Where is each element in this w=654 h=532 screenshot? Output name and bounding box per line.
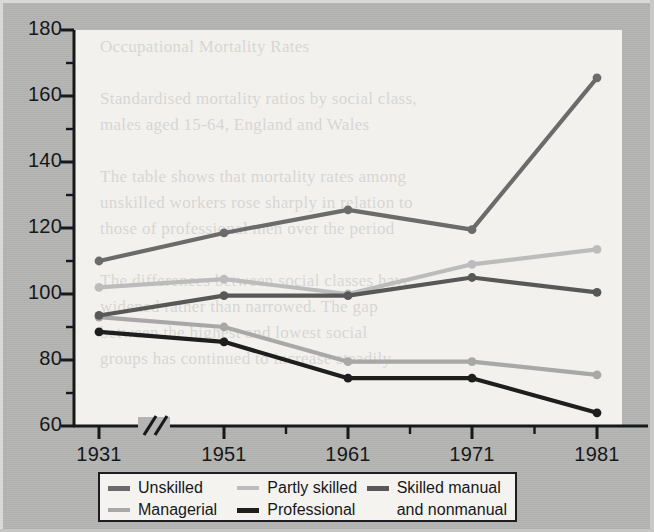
legend-entry-managerial: Managerial: [108, 499, 237, 521]
series-partly-skilled: [95, 245, 602, 298]
legend-column-1: UnskilledManagerial: [108, 477, 237, 521]
chart-series: [95, 73, 602, 417]
legend-entry-partly-skilled: Partly skilled: [237, 477, 366, 499]
series-skilled-manual-and-nonmanual: [95, 273, 602, 320]
legend-entry-professional: Professional: [237, 499, 366, 521]
y-tick-label-80: 80: [6, 347, 62, 370]
legend-label: Partly skilled: [267, 479, 357, 497]
legend-swatch-icon: [367, 486, 389, 491]
legend-label-continuation: and nonmanual: [367, 501, 507, 519]
legend-label: Unskilled: [138, 479, 203, 497]
x-tick-label-1931: 1931: [62, 443, 136, 466]
chart-legend: UnskilledManagerialPartly skilledProfess…: [98, 472, 517, 522]
y-tick-label-160: 160: [6, 83, 62, 106]
chart-page: Occupational Mortality Rates Standardise…: [0, 0, 654, 532]
legend-label: Managerial: [138, 501, 217, 519]
legend-column-2: Partly skilledProfessional: [237, 477, 366, 521]
x-tick-label-1961: 1961: [311, 443, 385, 466]
legend-label: Skilled manual: [397, 479, 501, 497]
legend-swatch-icon: [108, 508, 130, 512]
legend-swatch-icon: [108, 486, 130, 491]
series-professional: [95, 328, 602, 418]
legend-entry-continuation: and nonmanual: [367, 499, 507, 521]
y-tick-label-140: 140: [6, 149, 62, 172]
legend-column-3: Skilled manualand nonmanual: [367, 477, 507, 521]
legend-entry-unskilled: Unskilled: [108, 477, 237, 499]
x-tick-label-1971: 1971: [435, 443, 509, 466]
x-tick-label-1981: 1981: [560, 443, 634, 466]
legend-swatch-icon: [237, 486, 259, 490]
y-tick-label-100: 100: [6, 281, 62, 304]
axis-break-icon: [138, 416, 170, 435]
y-tick-label-180: 180: [6, 17, 62, 40]
legend-label: Professional: [267, 501, 355, 519]
series-unskilled: [95, 73, 602, 265]
series-managerial: [95, 313, 602, 380]
legend-entry-skilled-manual: Skilled manual: [367, 477, 507, 499]
y-tick-label-120: 120: [6, 215, 62, 238]
legend-swatch-icon: [237, 508, 259, 513]
y-tick-label-60: 60: [6, 413, 62, 436]
x-tick-label-1951: 1951: [187, 443, 261, 466]
